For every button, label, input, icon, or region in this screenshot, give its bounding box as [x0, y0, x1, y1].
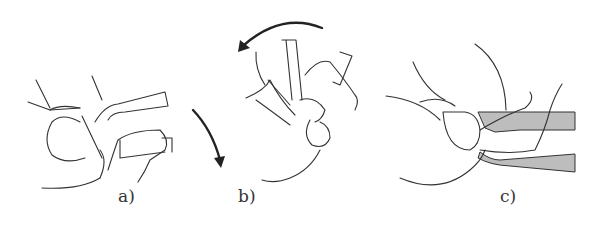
upper-forearm: [478, 112, 575, 132]
panel-c-drawing: [386, 44, 575, 185]
rotation-arrow-b: [244, 23, 322, 45]
panel-a-drawing: [28, 76, 172, 188]
panel-label-c: c): [500, 186, 516, 206]
lower-forearm: [478, 152, 575, 172]
panel-b-drawing: [246, 40, 358, 182]
rotation-arrow-a: [193, 110, 220, 160]
panel-label-a: a): [118, 186, 135, 206]
panel-label-b: b): [238, 186, 256, 206]
arrow-head-a: [214, 156, 225, 168]
